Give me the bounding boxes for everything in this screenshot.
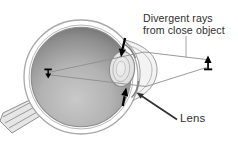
lens-leader <box>137 93 178 120</box>
lens-leader-line <box>142 96 177 119</box>
object-arrow-stem <box>207 63 209 69</box>
divergent-rays-label-line2: from close object <box>143 24 225 36</box>
eye-diagram-canvas: Divergent rays from close object Lens <box>0 0 238 144</box>
lens-label: Lens <box>180 112 206 124</box>
object-arrow-base <box>204 68 212 70</box>
eye-diagram-figure: Divergent rays from close object Lens <box>0 0 238 144</box>
divergent-rays-label-line1: Divergent rays <box>143 12 213 24</box>
